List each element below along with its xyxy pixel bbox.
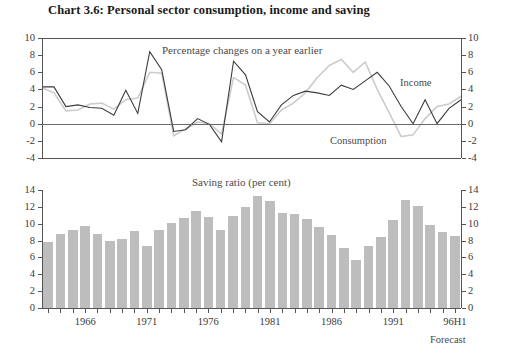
bot-xtick-mark <box>332 309 333 313</box>
bot-ytick-mark-right <box>462 207 466 208</box>
bot-ytick-mark-left <box>38 224 42 225</box>
bar-item <box>314 227 324 308</box>
top-ytick-mark-right <box>462 141 466 142</box>
bot-ytick-label-right: 10 <box>468 219 488 230</box>
bar-item <box>117 239 127 308</box>
top-axis-bottom <box>42 158 461 159</box>
top-ytick-label-right: 2 <box>468 102 488 113</box>
bot-xtick-mark <box>48 309 49 313</box>
bar-item <box>43 242 53 308</box>
bot-ytick-mark-left <box>38 207 42 208</box>
chart-figure: Chart 3.6: Personal sector consumption, … <box>0 0 516 362</box>
top-ytick-label-left: 8 <box>15 50 35 61</box>
top-ytick-label-right: -4 <box>468 153 488 164</box>
bot-ytick-label-left: 0 <box>15 303 35 314</box>
bot-xtick-mark <box>282 309 283 313</box>
bot-xtick-mark <box>455 309 456 313</box>
bot-xtick-label: 1981 <box>250 317 290 328</box>
bar-item <box>376 237 386 308</box>
bar-item <box>290 214 300 308</box>
forecast-annotation: Forecast <box>430 335 466 346</box>
bar-item <box>241 207 251 308</box>
bot-ytick-mark-right <box>462 190 466 191</box>
top-ytick-mark-left <box>38 107 42 108</box>
bar-item <box>425 225 435 308</box>
bot-xtick-label: 1971 <box>127 317 167 328</box>
top-ytick-mark-right <box>462 89 466 90</box>
bar-item <box>179 218 189 308</box>
top-ytick-mark-left <box>38 55 42 56</box>
bot-xtick-mark <box>110 309 111 313</box>
bot-xtick-mark <box>430 309 431 313</box>
bar-item <box>154 230 164 308</box>
bot-ytick-mark-right <box>462 308 466 309</box>
bot-ytick-mark-left <box>38 257 42 258</box>
bot-ytick-mark-right <box>462 224 466 225</box>
bot-xtick-mark <box>418 309 419 313</box>
bot-ytick-mark-left <box>38 308 42 309</box>
bar-item <box>68 230 78 308</box>
bar-item <box>253 196 263 308</box>
bot-xtick-label: 96H1 <box>435 317 475 328</box>
bot-ytick-label-left: 4 <box>15 269 35 280</box>
bot-ytick-label-right: 6 <box>468 252 488 263</box>
bot-xtick-mark <box>184 309 185 313</box>
bot-ytick-mark-right <box>462 291 466 292</box>
bot-ytick-label-right: 12 <box>468 202 488 213</box>
top-axis-top <box>42 38 461 39</box>
top-ytick-label-right: -2 <box>468 136 488 147</box>
bot-ytick-label-left: 12 <box>15 202 35 213</box>
bar-item <box>302 219 312 308</box>
bot-xtick-label: 1966 <box>65 317 105 328</box>
bot-ytick-label-left: 2 <box>15 286 35 297</box>
top-ytick-label-left: 0 <box>15 119 35 130</box>
bar-item <box>167 223 177 308</box>
bar-item <box>93 234 103 308</box>
bot-ytick-mark-left <box>38 291 42 292</box>
bot-xtick-mark <box>233 309 234 313</box>
top-ytick-mark-left <box>38 158 42 159</box>
top-ytick-mark-right <box>462 55 466 56</box>
top-ytick-label-right: 8 <box>468 50 488 61</box>
bot-xtick-mark <box>270 309 271 313</box>
bot-xtick-mark <box>196 309 197 313</box>
bot-xtick-mark <box>208 309 209 313</box>
top-ytick-mark-left <box>38 38 42 39</box>
bot-xtick-mark <box>171 309 172 313</box>
top-ytick-label-left: 10 <box>15 33 35 44</box>
bar-item <box>364 246 374 308</box>
bot-xtick-mark <box>295 309 296 313</box>
bot-xtick-label: 1976 <box>188 317 228 328</box>
top-ytick-mark-left <box>38 124 42 125</box>
bot-xtick-label: 1986 <box>312 317 352 328</box>
bot-xtick-mark <box>97 309 98 313</box>
bot-ytick-mark-right <box>462 274 466 275</box>
bar-chart-title: Saving ratio (per cent) <box>192 177 291 188</box>
bot-ytick-label-left: 14 <box>15 185 35 196</box>
bar-item <box>142 246 152 308</box>
bar-item <box>204 217 214 308</box>
bar-item <box>191 211 201 308</box>
bot-xtick-mark <box>134 309 135 313</box>
bot-xtick-mark <box>221 309 222 313</box>
bot-xtick-mark <box>369 309 370 313</box>
top-ytick-mark-left <box>38 72 42 73</box>
bot-ytick-mark-right <box>462 241 466 242</box>
bot-ytick-label-right: 4 <box>468 269 488 280</box>
bot-xtick-mark <box>85 309 86 313</box>
bar-item <box>351 260 361 308</box>
bot-xtick-label: 1991 <box>373 317 413 328</box>
top-ytick-mark-left <box>38 141 42 142</box>
bar-item <box>228 216 238 308</box>
bot-xtick-mark <box>258 309 259 313</box>
bot-xtick-mark <box>73 309 74 313</box>
income-line <box>42 52 461 142</box>
top-ytick-mark-right <box>462 158 466 159</box>
consumption-line <box>42 59 461 136</box>
bot-ytick-label-right: 0 <box>468 303 488 314</box>
bot-ytick-mark-right <box>462 257 466 258</box>
bar-item <box>265 201 275 308</box>
bar-item <box>327 235 337 308</box>
bot-ytick-label-right: 14 <box>468 185 488 196</box>
bot-ytick-label-left: 6 <box>15 252 35 263</box>
